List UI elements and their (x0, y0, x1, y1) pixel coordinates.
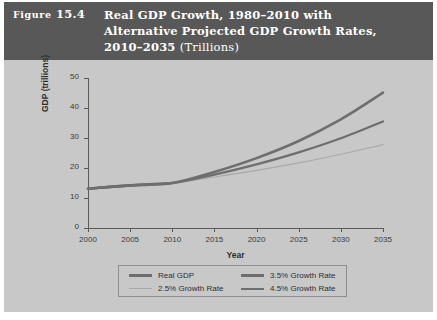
legend-swatch-icon (241, 288, 264, 290)
y-tick-label: 0 (75, 222, 79, 231)
x-tick-label: 2015 (206, 235, 224, 244)
figure-title-line-1: Real GDP Growth, 1980–2010 with (104, 7, 332, 23)
y-tick-label: 10 (70, 192, 79, 201)
x-axis-line (88, 228, 383, 229)
chart-legend: Real GDP 2.5% Growth Rate 3.5% Growth Ra… (118, 265, 347, 297)
legend-label: 2.5% Growth Rate (158, 284, 223, 293)
legend-item: Real GDP (129, 271, 194, 280)
x-tick (214, 228, 215, 232)
x-tick-label: 2035 (374, 235, 392, 244)
x-tick (341, 228, 342, 232)
legend-label: 3.5% Growth Rate (270, 271, 335, 280)
legend-swatch-icon (241, 274, 264, 277)
figure-number-prefix: Figure (13, 9, 52, 20)
chart-plot-lines (88, 78, 383, 228)
figure-title-line-2: Alternative Projected GDP Growth Rates, (104, 23, 377, 39)
figure-title-text: Figure 15.4 Real GDP Growth, 1980–2010 w… (13, 7, 427, 21)
figure-title-line-3: 2010–2035 (Trillions) (104, 39, 239, 55)
y-tick-label: 50 (70, 72, 79, 81)
y-tick-label: 20 (70, 162, 79, 171)
chart-area: GDP (trillions) 01020304050 200020052010… (4, 60, 433, 312)
legend-swatch-icon (129, 274, 152, 277)
x-tick-label: 2025 (290, 235, 308, 244)
legend-swatch-icon (129, 288, 152, 289)
y-tick-label: 30 (70, 132, 79, 141)
legend-item: 4.5% Growth Rate (241, 284, 335, 293)
legend-item: 3.5% Growth Rate (241, 271, 335, 280)
x-tick (88, 228, 89, 232)
figure-panel: Figure 15.4 Real GDP Growth, 1980–2010 w… (4, 2, 433, 312)
x-tick-label: 2005 (121, 235, 139, 244)
x-tick (383, 228, 384, 232)
x-tick-label: 2020 (248, 235, 266, 244)
x-tick-label: 2000 (79, 235, 97, 244)
x-tick (257, 228, 258, 232)
x-tick (172, 228, 173, 232)
plot-frame: 01020304050 2000200520102015202020252030… (88, 78, 383, 228)
figure-title-band: Figure 15.4 Real GDP Growth, 1980–2010 w… (4, 2, 433, 60)
x-tick (299, 228, 300, 232)
y-axis-title: GDP (trillions) (40, 55, 50, 112)
figure-title-line-3-light: (Trillions) (180, 40, 239, 54)
figure-number-value: 15.4 (56, 7, 85, 21)
figure-title-line-3-bold: 2010–2035 (104, 40, 180, 54)
x-tick-label: 2030 (332, 235, 350, 244)
x-axis-title: Year (88, 250, 383, 260)
legend-label: 4.5% Growth Rate (270, 284, 335, 293)
chart-line (88, 183, 172, 189)
legend-item: 2.5% Growth Rate (129, 284, 223, 293)
y-tick-label: 40 (70, 102, 79, 111)
x-tick (130, 228, 131, 232)
legend-label: Real GDP (158, 271, 194, 280)
x-tick-label: 2010 (163, 235, 181, 244)
